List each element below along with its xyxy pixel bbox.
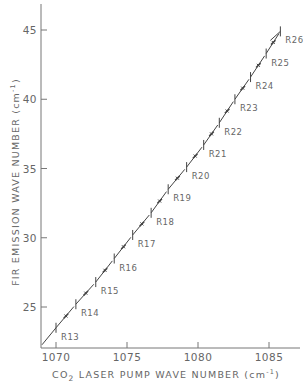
data-series [42,26,280,344]
chart-canvas: 10701075108010852530354045 R13R14R15R16R… [0,0,303,382]
point-labels: R13R14R15R16R17R18R19R20R21R22R23R24R25R… [61,35,303,341]
point-label-r22: R22 [224,127,242,137]
y-tick-label: 40 [23,93,37,105]
x-tick-label: 1075 [113,351,142,363]
y-tick-label: 25 [23,301,37,313]
series-segment [42,328,56,345]
point-label-r18: R18 [156,217,174,227]
point-label-r17: R17 [138,239,156,249]
x-axis-title: CO2 LASER PUMP WAVE NUMBER (cm-1) [52,368,280,382]
point-label-r15: R15 [101,286,119,296]
x-tick-label: 1080 [184,351,213,363]
point-label-r14: R14 [81,308,99,318]
point-label-r26: R26 [285,35,303,45]
y-tick-label: 30 [23,232,37,244]
x-tick-label: 1085 [255,351,284,363]
tick-marks [41,30,269,348]
x-tick-label: 1070 [42,351,71,363]
point-label-r16: R16 [119,263,137,273]
point-label-r24: R24 [256,81,274,91]
point-label-r13: R13 [61,332,79,342]
y-tick-label: 45 [23,24,37,36]
tick-labels: 10701075108010852530354045 [23,24,284,363]
point-label-r20: R20 [192,171,210,181]
point-label-r21: R21 [209,149,227,159]
point-label-r23: R23 [240,103,258,113]
axes [41,4,300,348]
y-axis-title: FIR EMISSION WAVE NUMBER (cm-1) [9,78,21,286]
point-label-r19: R19 [173,193,191,203]
y-tick-label: 35 [23,163,37,175]
point-label-r25: R25 [271,58,289,68]
